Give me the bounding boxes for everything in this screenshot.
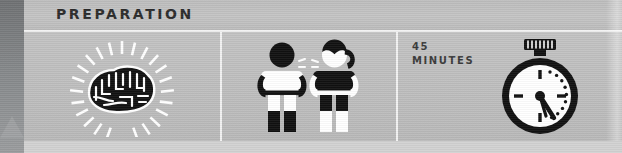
time-panel: 45 MINUTES bbox=[398, 32, 622, 141]
person-left bbox=[257, 42, 306, 132]
brain-panel bbox=[24, 32, 220, 141]
people-panel bbox=[222, 32, 396, 141]
right-highlight bbox=[606, 0, 622, 141]
duration-label: 45 MINUTES bbox=[412, 40, 474, 68]
preparation-info-strip: PREPARATION bbox=[0, 0, 622, 153]
panel-row: 45 MINUTES bbox=[24, 32, 622, 141]
page-title: PREPARATION bbox=[56, 6, 194, 22]
left-spine bbox=[0, 0, 24, 153]
speech-marks bbox=[299, 59, 318, 67]
duration-value: 45 bbox=[412, 40, 474, 54]
duration-unit: MINUTES bbox=[412, 54, 474, 68]
stopwatch-icon bbox=[486, 34, 594, 140]
below-strip bbox=[0, 141, 622, 153]
brain-idea-icon bbox=[62, 37, 182, 137]
two-people-talking-icon bbox=[244, 37, 374, 137]
spine-triangle-icon bbox=[0, 116, 24, 138]
person-right bbox=[309, 39, 358, 132]
section-header: PREPARATION bbox=[24, 0, 622, 30]
